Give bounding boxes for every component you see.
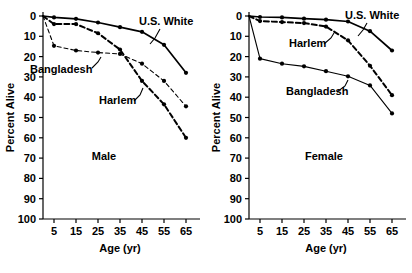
- y-tick-label: 90: [230, 193, 242, 205]
- data-point: [302, 17, 306, 21]
- data-point: [140, 30, 144, 34]
- y-tick-label: 0: [236, 10, 242, 22]
- y-axis-title: Percent Alive: [210, 83, 222, 152]
- series-line-harlem: [249, 16, 392, 95]
- data-point: [52, 44, 56, 48]
- y-tick-label: 80: [24, 172, 36, 184]
- y-tick-label: 40: [230, 91, 242, 103]
- data-point: [324, 24, 328, 28]
- data-point: [280, 62, 284, 66]
- data-point: [118, 52, 122, 56]
- x-tick-label: 65: [180, 225, 192, 237]
- x-tick-label: 55: [158, 225, 170, 237]
- y-tick-label: 70: [24, 152, 36, 164]
- data-point: [258, 57, 262, 61]
- x-tick-label: 15: [70, 225, 82, 237]
- y-tick-label: 100: [224, 213, 242, 225]
- y-tick-label: 0: [30, 10, 36, 22]
- series-label-harlem: Harlem: [289, 37, 327, 49]
- x-tick-label: 5: [51, 225, 57, 237]
- y-tick-label: 10: [230, 30, 242, 42]
- data-point: [302, 21, 306, 25]
- data-point: [96, 20, 100, 24]
- data-point: [74, 48, 78, 52]
- data-point: [280, 20, 284, 24]
- y-tick-label: 100: [18, 213, 36, 225]
- data-point: [324, 69, 328, 73]
- y-tick-label: 20: [230, 51, 242, 63]
- data-point: [390, 93, 394, 97]
- data-point: [346, 74, 350, 78]
- x-tick-label: 55: [364, 225, 376, 237]
- data-point: [258, 19, 262, 23]
- data-point: [302, 64, 306, 68]
- y-tick-label: 70: [230, 152, 242, 164]
- y-tick-label: 80: [230, 172, 242, 184]
- series-label-u-s-white: U.S. White: [345, 9, 399, 21]
- x-tick-label: 15: [276, 225, 288, 237]
- annotation-leader-bangladesh: [92, 57, 101, 68]
- data-point: [96, 31, 100, 35]
- y-tick-label: 50: [230, 112, 242, 124]
- x-tick-label: 45: [342, 225, 354, 237]
- y-tick-label: 50: [24, 112, 36, 124]
- x-axis-title: Age (yr): [99, 242, 141, 254]
- data-point: [184, 104, 188, 108]
- data-point: [258, 15, 262, 19]
- x-tick-label: 25: [298, 225, 310, 237]
- chart-panel-male: 10090807060504030201005152535455565Age (…: [0, 0, 206, 273]
- data-point: [162, 102, 166, 106]
- data-point: [140, 79, 144, 83]
- panel-label: Female: [305, 150, 343, 162]
- y-tick-label: 90: [24, 193, 36, 205]
- data-point: [368, 83, 372, 87]
- y-axis-title: Percent Alive: [4, 83, 16, 152]
- y-tick-label: 40: [24, 91, 36, 103]
- data-point: [74, 17, 78, 21]
- data-point: [162, 79, 166, 83]
- series-label-bangladesh: Bangladesh: [30, 63, 93, 75]
- data-point: [390, 111, 394, 115]
- series-label-bangladesh: Bangladesh: [286, 85, 349, 97]
- y-tick-label: 60: [24, 132, 36, 144]
- data-point: [162, 43, 166, 47]
- data-point: [324, 18, 328, 22]
- male-survival-chart: 10090807060504030201005152535455565Age (…: [0, 0, 206, 273]
- y-tick-label: 30: [230, 71, 242, 83]
- data-point: [184, 71, 188, 75]
- data-point: [184, 136, 188, 140]
- y-tick-label: 60: [230, 132, 242, 144]
- x-tick-label: 65: [386, 225, 398, 237]
- x-tick-label: 5: [257, 225, 263, 237]
- data-point: [280, 15, 284, 19]
- series-line-bangladesh: [43, 16, 186, 106]
- y-tick-label: 10: [24, 30, 36, 42]
- x-axis-title: Age (yr): [305, 242, 347, 254]
- panel-label: Male: [92, 150, 116, 162]
- chart-panel-female: 10090807060504030201005152535455565Age (…: [206, 0, 412, 273]
- data-point: [346, 38, 350, 42]
- data-point: [368, 29, 372, 33]
- figure-root: 10090807060504030201005152535455565Age (…: [0, 0, 412, 273]
- x-tick-label: 45: [136, 225, 148, 237]
- data-point: [74, 22, 78, 26]
- x-tick-label: 35: [114, 225, 126, 237]
- series-label-harlem: Harlem: [99, 94, 137, 106]
- series-line-harlem: [43, 16, 186, 138]
- data-point: [52, 22, 56, 26]
- data-point: [368, 64, 372, 68]
- data-point: [118, 47, 122, 51]
- x-tick-label: 25: [92, 225, 104, 237]
- data-point: [140, 62, 144, 66]
- female-survival-chart: 10090807060504030201005152535455565Age (…: [206, 0, 412, 273]
- y-tick-label: 20: [24, 51, 36, 63]
- x-tick-label: 35: [320, 225, 332, 237]
- data-point: [52, 15, 56, 19]
- data-point: [96, 50, 100, 54]
- data-point: [118, 25, 122, 29]
- series-label-u-s-white: U.S. White: [139, 15, 193, 27]
- data-point: [390, 48, 394, 52]
